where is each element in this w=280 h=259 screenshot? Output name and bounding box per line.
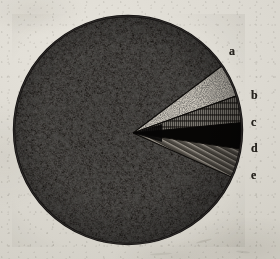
plate-svg [12,14,245,247]
label-d: d [251,142,258,154]
micrograph-plate [12,14,245,247]
figure-page: a b c d e [0,0,280,259]
label-c: c [251,116,256,128]
label-e: e [251,169,256,181]
label-b: b [251,89,258,101]
label-a: a [229,45,235,57]
